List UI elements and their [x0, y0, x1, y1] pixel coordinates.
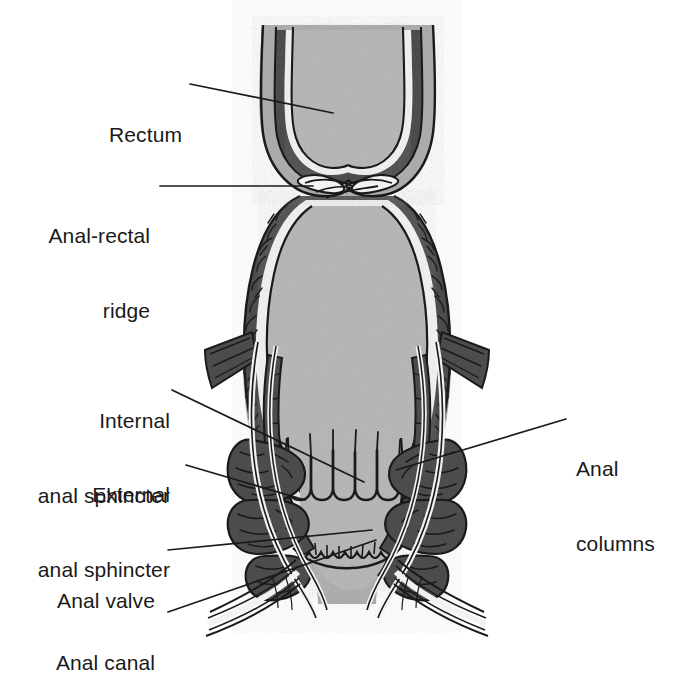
- label-internal-anal-sphincter-line1: Internal: [0, 408, 170, 433]
- label-anal-columns-line1: Anal: [576, 456, 676, 481]
- label-anal-canal: Anal canal: [0, 600, 155, 674]
- label-anal-rectal-ridge: Anal-rectal ridge: [0, 173, 150, 373]
- label-anal-rectal-ridge-line2: ridge: [0, 298, 150, 323]
- rectum-group: [261, 25, 435, 196]
- label-anal-rectal-ridge-line1: Anal-rectal: [0, 223, 150, 248]
- label-external-anal-sphincter-line1: External: [0, 482, 170, 507]
- label-anal-columns-line2: columns: [576, 531, 676, 556]
- label-anal-columns: Anal columns: [576, 406, 676, 606]
- label-anal-canal-line1: Anal canal: [0, 650, 155, 674]
- label-rectum-line1: Rectum: [0, 122, 182, 147]
- rectum-lumen: [292, 30, 405, 168]
